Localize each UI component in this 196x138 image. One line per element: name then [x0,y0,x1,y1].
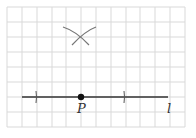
point-p-label: P [76,101,86,116]
tick-left [36,91,37,103]
arc-left [63,27,89,45]
tick-right [124,91,125,103]
compass-arcs [63,27,96,45]
line-l-label: l [167,101,171,116]
point-p [78,94,84,100]
arc-right [72,27,96,45]
construction-diagram: P l [0,0,196,138]
grid [7,7,185,127]
